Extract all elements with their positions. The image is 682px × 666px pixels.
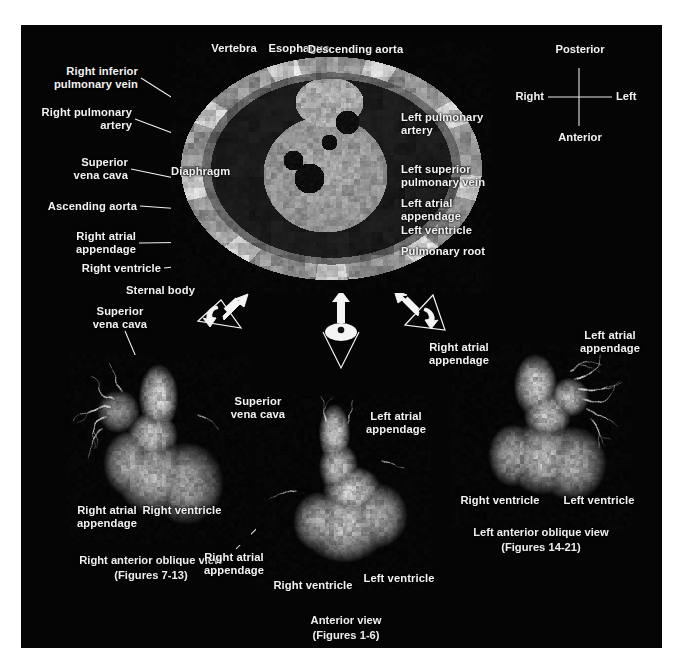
view-indicator-rao-symbol (198, 294, 248, 328)
label-diaphragm: Diaphragm (171, 165, 247, 178)
ant-label-superior-vena-cava: Superior vena cava (205, 395, 311, 422)
label-ascending-aorta: Ascending aorta (21, 200, 137, 213)
ant-caption-title: Anterior view (311, 614, 382, 626)
lao-label-left-ventricle: Left ventricle (543, 494, 655, 507)
label-pulmonary-root: Pulmonary root (401, 245, 513, 258)
label-left-pulmonary-artery: Left pulmonary artery (401, 111, 511, 138)
lao-caption-title: Left anterior oblique view (473, 526, 609, 538)
label-right-inferior-pulmonary-vein: Right inferior pulmonary vein (21, 65, 138, 92)
figure-panel: Vertebra Esophagus Descending aorta Righ… (21, 25, 662, 648)
lao-label-right-ventricle: Right ventricle (444, 494, 556, 507)
rao-caption-figures: (Figures 7-13) (114, 569, 187, 581)
view-indicator-lao-symbol (394, 290, 445, 330)
label-right-ventricle: Right ventricle (21, 262, 161, 275)
label-superior-vena-cava: Superior vena cava (21, 156, 128, 183)
lao-caption: Left anterior oblique view(Figures 14-21… (421, 525, 661, 555)
label-left-superior-pulmonary-vein: Left superior pulmonary vein (401, 163, 521, 190)
compass-label-left: Left (616, 90, 637, 102)
lao-label-left-atrial-appendage: Left atrial appendage (559, 329, 661, 356)
view-indicator-anterior-symbol (323, 290, 359, 368)
orientation-compass: Posterior Anterior Right Left (501, 43, 656, 151)
ant-caption: Anterior view(Figures 1-6) (271, 613, 421, 643)
compass-label-posterior: Posterior (545, 43, 615, 55)
rao-label-superior-vena-cava: Superior vena cava (67, 305, 173, 332)
label-left-ventricle: Left ventricle (401, 224, 505, 237)
rao-label-right-ventricle: Right ventricle (126, 504, 238, 517)
label-right-pulmonary-artery: Right pulmonary artery (21, 106, 132, 133)
compass-label-right: Right (501, 90, 544, 102)
label-sternal-body: Sternal body (21, 284, 195, 297)
anatomy-figure: Vertebra Esophagus Descending aorta Righ… (0, 0, 682, 666)
lao-caption-figures: (Figures 14-21) (501, 541, 581, 553)
ant-caption-figures: (Figures 1-6) (312, 629, 379, 641)
ant-label-left-ventricle: Left ventricle (343, 572, 455, 585)
compass-label-anterior: Anterior (549, 131, 611, 143)
label-right-atrial-appendage: Right atrial appendage (21, 230, 136, 257)
lao-label-right-atrial-appendage: Right atrial appendage (403, 341, 515, 368)
ant-label-right-atrial-appendage: Right atrial appendage (178, 551, 290, 578)
label-left-atrial-appendage: Left atrial appendage (401, 197, 505, 224)
label-descending-aorta: Descending aorta (293, 43, 418, 56)
ant-label-left-atrial-appendage: Left atrial appendage (343, 410, 449, 437)
